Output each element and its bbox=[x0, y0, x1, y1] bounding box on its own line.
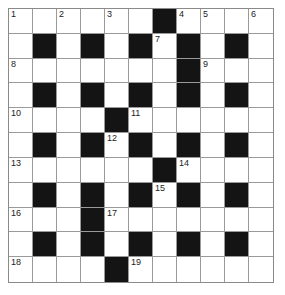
answer-cell[interactable] bbox=[57, 183, 81, 208]
answer-cell[interactable] bbox=[57, 257, 81, 282]
answer-cell[interactable] bbox=[105, 183, 129, 208]
answer-cell[interactable] bbox=[225, 257, 249, 282]
answer-cell[interactable]: 7 bbox=[153, 34, 177, 59]
answer-cell[interactable] bbox=[105, 59, 129, 84]
answer-cell[interactable] bbox=[129, 59, 153, 84]
answer-cell[interactable]: 12 bbox=[105, 133, 129, 158]
block-cell bbox=[81, 83, 105, 108]
answer-cell[interactable]: 14 bbox=[177, 158, 201, 183]
answer-cell[interactable] bbox=[33, 108, 57, 133]
answer-cell[interactable] bbox=[9, 83, 33, 108]
block-cell bbox=[177, 232, 201, 257]
answer-cell[interactable] bbox=[177, 108, 201, 133]
answer-cell[interactable] bbox=[81, 9, 105, 34]
answer-cell[interactable] bbox=[153, 83, 177, 108]
answer-cell[interactable]: 9 bbox=[201, 59, 225, 84]
answer-cell[interactable]: 19 bbox=[129, 257, 153, 282]
answer-cell[interactable]: 2 bbox=[57, 9, 81, 34]
answer-cell[interactable] bbox=[153, 59, 177, 84]
answer-cell[interactable] bbox=[57, 208, 81, 233]
block-cell bbox=[33, 133, 57, 158]
answer-cell[interactable]: 15 bbox=[153, 183, 177, 208]
answer-cell[interactable] bbox=[9, 183, 33, 208]
answer-cell[interactable] bbox=[153, 232, 177, 257]
answer-cell[interactable] bbox=[249, 232, 273, 257]
answer-cell[interactable] bbox=[249, 183, 273, 208]
answer-cell[interactable] bbox=[249, 34, 273, 59]
answer-cell[interactable] bbox=[201, 232, 225, 257]
answer-cell[interactable] bbox=[9, 34, 33, 59]
answer-cell[interactable] bbox=[57, 83, 81, 108]
answer-cell[interactable] bbox=[153, 133, 177, 158]
answer-cell[interactable] bbox=[225, 9, 249, 34]
answer-cell[interactable] bbox=[177, 208, 201, 233]
answer-cell[interactable] bbox=[57, 232, 81, 257]
answer-cell[interactable] bbox=[57, 59, 81, 84]
answer-cell[interactable] bbox=[33, 257, 57, 282]
answer-cell[interactable] bbox=[105, 83, 129, 108]
answer-cell[interactable] bbox=[249, 133, 273, 158]
answer-cell[interactable] bbox=[249, 59, 273, 84]
answer-cell[interactable] bbox=[129, 208, 153, 233]
answer-cell[interactable] bbox=[249, 257, 273, 282]
clue-number: 5 bbox=[203, 10, 208, 19]
answer-cell[interactable] bbox=[33, 9, 57, 34]
answer-cell[interactable] bbox=[57, 133, 81, 158]
answer-cell[interactable] bbox=[153, 208, 177, 233]
answer-cell[interactable] bbox=[153, 108, 177, 133]
answer-cell[interactable]: 18 bbox=[9, 257, 33, 282]
answer-cell[interactable] bbox=[105, 232, 129, 257]
answer-cell[interactable] bbox=[9, 133, 33, 158]
answer-cell[interactable] bbox=[201, 34, 225, 59]
answer-cell[interactable] bbox=[57, 108, 81, 133]
answer-cell[interactable] bbox=[249, 158, 273, 183]
block-cell bbox=[33, 232, 57, 257]
answer-cell[interactable] bbox=[81, 59, 105, 84]
answer-cell[interactable] bbox=[225, 108, 249, 133]
answer-cell[interactable]: 16 bbox=[9, 208, 33, 233]
answer-cell[interactable] bbox=[129, 9, 153, 34]
answer-cell[interactable] bbox=[81, 158, 105, 183]
answer-cell[interactable]: 11 bbox=[129, 108, 153, 133]
answer-cell[interactable]: 6 bbox=[249, 9, 273, 34]
answer-cell[interactable] bbox=[9, 232, 33, 257]
answer-cell[interactable] bbox=[225, 59, 249, 84]
answer-cell[interactable]: 4 bbox=[177, 9, 201, 34]
answer-cell[interactable] bbox=[81, 257, 105, 282]
crossword-grid: 12345678910111213141516171819 bbox=[8, 8, 274, 283]
answer-cell[interactable]: 3 bbox=[105, 9, 129, 34]
answer-cell[interactable]: 8 bbox=[9, 59, 33, 84]
answer-cell[interactable] bbox=[201, 183, 225, 208]
block-cell bbox=[177, 183, 201, 208]
answer-cell[interactable] bbox=[129, 158, 153, 183]
answer-cell[interactable] bbox=[177, 257, 201, 282]
answer-cell[interactable] bbox=[153, 257, 177, 282]
answer-cell[interactable] bbox=[33, 158, 57, 183]
answer-cell[interactable] bbox=[201, 257, 225, 282]
answer-cell[interactable] bbox=[201, 133, 225, 158]
answer-cell[interactable] bbox=[201, 108, 225, 133]
answer-cell[interactable] bbox=[201, 208, 225, 233]
answer-cell[interactable] bbox=[249, 208, 273, 233]
answer-cell[interactable] bbox=[81, 108, 105, 133]
answer-cell[interactable] bbox=[57, 158, 81, 183]
answer-cell[interactable] bbox=[201, 158, 225, 183]
answer-cell[interactable] bbox=[33, 208, 57, 233]
answer-cell[interactable] bbox=[57, 34, 81, 59]
block-cell bbox=[129, 83, 153, 108]
answer-cell[interactable]: 13 bbox=[9, 158, 33, 183]
answer-cell[interactable] bbox=[225, 158, 249, 183]
answer-cell[interactable] bbox=[105, 34, 129, 59]
answer-cell[interactable] bbox=[225, 208, 249, 233]
answer-cell[interactable] bbox=[249, 83, 273, 108]
answer-cell[interactable] bbox=[201, 83, 225, 108]
answer-cell[interactable] bbox=[249, 108, 273, 133]
answer-cell[interactable]: 1 bbox=[9, 9, 33, 34]
block-cell bbox=[105, 108, 129, 133]
answer-cell[interactable] bbox=[33, 59, 57, 84]
answer-cell[interactable]: 17 bbox=[105, 208, 129, 233]
answer-cell[interactable] bbox=[105, 158, 129, 183]
answer-cell[interactable]: 10 bbox=[9, 108, 33, 133]
block-cell bbox=[129, 183, 153, 208]
answer-cell[interactable]: 5 bbox=[201, 9, 225, 34]
